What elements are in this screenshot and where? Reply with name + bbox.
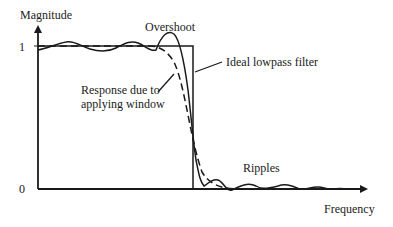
- windowed-response-curve: [38, 46, 250, 189]
- window-response-label-line2: applying window: [81, 98, 165, 111]
- lowpass-filter-diagram: Magnitude 1 0 Frequency Overshoot Ideal …: [0, 0, 393, 227]
- ideal-filter-label: Ideal lowpass filter: [226, 56, 318, 69]
- y-tick-label-1: 1: [19, 41, 25, 54]
- x-axis-label: Frequency: [324, 203, 375, 216]
- window-response-pointer: [158, 74, 174, 92]
- y-axis-label: Magnitude: [20, 9, 72, 22]
- y-tick-label-0: 0: [19, 183, 25, 196]
- overshoot-label: Overshoot: [145, 21, 195, 34]
- diagram-graphics: [0, 0, 393, 227]
- ideal-filter-line: [38, 46, 193, 189]
- ideal-filter-pointer: [195, 62, 222, 72]
- window-response-label-line1: Response due to: [81, 84, 160, 97]
- ripples-label: Ripples: [243, 162, 280, 175]
